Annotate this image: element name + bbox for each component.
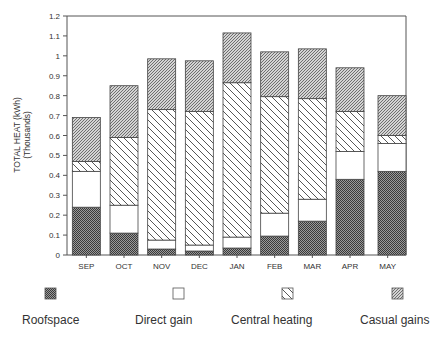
- segment-roofspace: [378, 171, 406, 255]
- x-tick-label: MAR: [303, 262, 321, 271]
- y-tick-label: 0.5: [49, 151, 61, 160]
- segment-central-heating: [261, 97, 289, 214]
- segment-roofspace: [223, 248, 251, 255]
- segment-roofspace: [72, 207, 100, 255]
- y-tick-label: 1.1: [49, 32, 61, 41]
- y-tick-label: 0: [56, 251, 61, 260]
- bar-nov: [148, 59, 176, 255]
- stacked-bar-chart: 00.10.20.30.40.50.60.70.80.911.11.2TOTAL…: [0, 0, 439, 341]
- x-tick-label: SEP: [78, 262, 94, 271]
- segment-central-heating: [148, 110, 176, 240]
- legend-label-roofspace: Roofspace: [22, 313, 79, 327]
- y-tick-label: 0.1: [49, 231, 61, 240]
- segment-central-heating: [298, 99, 326, 200]
- segment-direct-gain: [261, 213, 289, 236]
- y-tick-label: 0.6: [49, 132, 61, 141]
- legend-swatches: [45, 288, 403, 299]
- legend-swatch-roofspace: [45, 288, 56, 299]
- segment-direct-gain: [110, 205, 138, 233]
- bar-sep: [72, 118, 100, 255]
- segment-roofspace: [185, 251, 213, 255]
- segment-roofspace: [148, 249, 176, 255]
- x-tick-label: NOV: [153, 262, 171, 271]
- legend-label-casual-gains: Casual gains: [360, 313, 429, 327]
- bar-may: [378, 96, 406, 255]
- bar-feb: [261, 52, 289, 255]
- segment-casual-gains: [110, 86, 138, 138]
- segment-direct-gain: [298, 199, 326, 221]
- segment-casual-gains: [378, 96, 406, 136]
- segment-direct-gain: [148, 240, 176, 249]
- y-tick-label: 1: [56, 52, 61, 61]
- x-tick-label: APR: [342, 262, 359, 271]
- segment-casual-gains: [298, 49, 326, 99]
- y-tick-label: 0.8: [49, 92, 61, 101]
- segment-roofspace: [261, 236, 289, 255]
- legend-swatch-casual-gains: [392, 288, 403, 299]
- segment-casual-gains: [185, 61, 213, 112]
- segment-roofspace: [298, 221, 326, 255]
- segment-central-heating: [72, 161, 100, 171]
- x-tick-label: FEB: [267, 262, 283, 271]
- segment-central-heating: [110, 137, 138, 205]
- legend-label-central-heating: Central heating: [231, 313, 312, 327]
- y-tick-label: 0.4: [49, 171, 61, 180]
- bar-dec: [185, 61, 213, 255]
- x-tick-label: JAN: [229, 262, 244, 271]
- bars: [72, 33, 406, 255]
- y-tick-label: 0.7: [49, 112, 61, 121]
- segment-casual-gains: [336, 68, 364, 112]
- segment-casual-gains: [72, 118, 100, 162]
- segment-direct-gain: [336, 151, 364, 179]
- y-tick-label: 0.3: [49, 191, 61, 200]
- y-tick-label: 0.2: [49, 211, 61, 220]
- segment-direct-gain: [378, 143, 406, 171]
- bar-jan: [223, 33, 251, 255]
- segment-central-heating: [223, 83, 251, 237]
- segment-casual-gains: [148, 59, 176, 110]
- legend-swatch-central-heating: [282, 288, 293, 299]
- segment-casual-gains: [261, 52, 289, 97]
- segment-central-heating: [378, 136, 406, 144]
- segment-casual-gains: [223, 33, 251, 83]
- y-axis-subtitle: (Thousands): [22, 111, 32, 159]
- segment-roofspace: [110, 233, 138, 255]
- y-tick-label: 0.9: [49, 72, 61, 81]
- segment-direct-gain: [185, 245, 213, 251]
- x-tick-label: DEC: [191, 262, 208, 271]
- segment-direct-gain: [223, 237, 251, 248]
- bar-oct: [110, 86, 138, 255]
- segment-direct-gain: [72, 171, 100, 207]
- y-axis-title: TOTAL HEAT (kWh): [12, 97, 22, 173]
- x-tick-label: MAY: [379, 262, 396, 271]
- legend-label-direct-gain: Direct gain: [135, 313, 192, 327]
- bar-mar: [298, 49, 326, 255]
- bar-apr: [336, 68, 364, 255]
- segment-roofspace: [336, 179, 364, 255]
- x-tick-label: OCT: [116, 262, 133, 271]
- y-tick-label: 1.2: [49, 12, 61, 21]
- legend-swatch-direct-gain: [173, 288, 184, 299]
- segment-central-heating: [336, 112, 364, 152]
- segment-central-heating: [185, 112, 213, 245]
